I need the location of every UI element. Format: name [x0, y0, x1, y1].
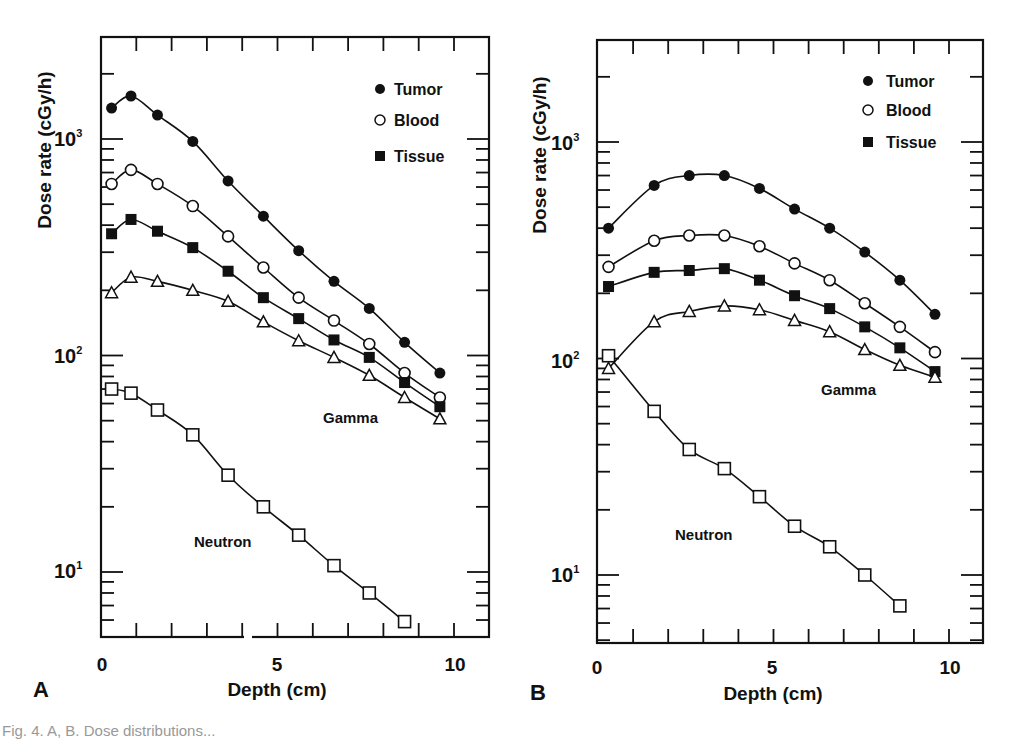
y-axis-title-a: Dose rate (cGy/h) [34, 71, 55, 228]
legend-blood-a: Blood [394, 112, 439, 129]
y-axis-title-b: Dose rate (cGy/h) [529, 76, 550, 233]
ytick-label-100-a: 102 [54, 344, 82, 367]
xtick-label-5-a: 5 [272, 654, 283, 675]
legend-blood-b: Blood [886, 102, 931, 119]
plot-frame-b [597, 40, 983, 643]
panel-letter-a: A [33, 677, 49, 702]
neutron-label-a: Neutron [194, 533, 252, 550]
xtick-label-10-b: 10 [939, 657, 960, 678]
panel-letter-b: B [530, 680, 546, 705]
legend-tumor-b: Tumor [886, 73, 935, 90]
data-curves-b [603, 170, 941, 612]
data-curves-a [106, 90, 446, 627]
legend-tissue-b: Tissue [886, 134, 937, 151]
panel-a: 103 102 101 0 5 10 Depth (cm) A Dose rat… [33, 37, 489, 702]
xtick-label-10-a: 10 [444, 654, 465, 675]
axis-ticks-b [597, 40, 983, 643]
legend-a: Tumor Blood Tissue [375, 81, 445, 165]
ytick-label-10-b: 101 [551, 563, 579, 586]
xtick-label-5-b: 5 [767, 657, 778, 678]
legend-b: Tumor Blood Tissue [863, 73, 937, 151]
ytick-label-100-b: 102 [551, 349, 579, 372]
x-axis-title-b: Depth (cm) [723, 683, 822, 704]
gamma-label-a: Gamma [323, 409, 379, 426]
gamma-label-b: Gamma [821, 381, 877, 398]
ytick-label-1000-b: 103 [551, 131, 579, 154]
x-axis-title-a: Depth (cm) [227, 679, 326, 700]
ytick-label-10-a: 101 [54, 559, 82, 582]
legend-tissue-a: Tissue [394, 148, 445, 165]
ytick-label-1000-a: 103 [54, 127, 82, 150]
xtick-label-0-a: 0 [97, 654, 108, 675]
panel-b: 103 102 101 0 5 10 Depth (cm) B Dose rat… [529, 40, 983, 705]
figure-caption: Fig. 4. A, B. Dose distributions... [2, 722, 215, 739]
xtick-label-0-b: 0 [592, 657, 603, 678]
neutron-label-b: Neutron [675, 526, 733, 543]
legend-tumor-a: Tumor [394, 81, 443, 98]
